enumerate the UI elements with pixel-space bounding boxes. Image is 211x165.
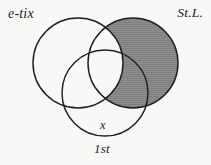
element-marker-x: x	[100, 118, 106, 133]
venn-diagram-figure: e-tix St.L. x 1st	[0, 0, 211, 165]
set-label-bottom: 1st	[94, 141, 110, 157]
set-label-right: St.L.	[177, 5, 203, 21]
set-label-left: e-tix	[8, 6, 34, 22]
